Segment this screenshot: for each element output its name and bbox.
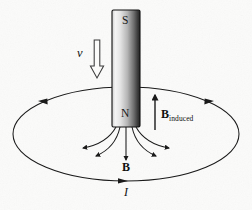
magnet-south-pole-label: S bbox=[122, 15, 128, 27]
magnet-field-label: B bbox=[122, 161, 130, 173]
current-label: I bbox=[124, 186, 128, 198]
induced-field-label: Binduced bbox=[161, 108, 193, 120]
velocity-label: v bbox=[77, 47, 83, 60]
diagram-canvas bbox=[0, 0, 252, 210]
physics-diagram-figure: S N v Binduced B I bbox=[0, 0, 252, 210]
induced-field-symbol: B bbox=[161, 107, 169, 121]
magnet-north-pole-label: N bbox=[121, 108, 129, 120]
induced-field-subscript: induced bbox=[169, 114, 193, 123]
